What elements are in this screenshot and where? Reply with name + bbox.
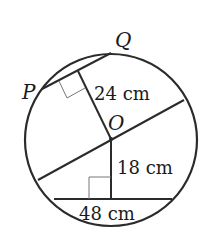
perpendicular-o-to-pq bbox=[78, 71, 111, 139]
center-point bbox=[109, 137, 113, 141]
label-p: P bbox=[21, 80, 36, 104]
label-24cm: 24 cm bbox=[94, 83, 150, 104]
label-48cm: 48 cm bbox=[79, 203, 135, 224]
label-18cm: 18 cm bbox=[117, 157, 173, 178]
label-q: Q bbox=[115, 28, 131, 52]
right-angle-mark-top bbox=[59, 81, 85, 98]
label-o: O bbox=[108, 111, 124, 135]
right-angle-mark-bottom bbox=[89, 177, 111, 199]
geometry-diagram: Q P O 24 cm 18 cm 48 cm bbox=[0, 0, 205, 238]
